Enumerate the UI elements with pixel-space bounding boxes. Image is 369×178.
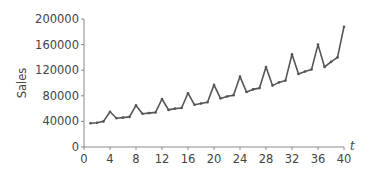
data-point-marker	[109, 111, 112, 114]
x-tick-label: 32	[285, 152, 300, 166]
data-point-marker	[252, 88, 255, 91]
data-point-marker	[154, 111, 157, 114]
y-tick-label: 40000	[42, 114, 79, 128]
data-point-marker	[141, 112, 144, 115]
data-point-marker	[297, 73, 300, 76]
data-point-marker	[135, 104, 138, 107]
data-point-marker	[219, 97, 222, 100]
data-point-marker	[122, 116, 125, 119]
data-point-marker	[239, 75, 242, 78]
x-tick-label: 40	[337, 152, 352, 166]
x-tick-label: 4	[106, 152, 113, 166]
data-point-marker	[271, 84, 274, 87]
data-point-marker	[232, 94, 235, 97]
x-tick-label: 36	[311, 152, 326, 166]
x-tick-label: 12	[155, 152, 170, 166]
data-point-marker	[206, 101, 209, 104]
data-point-marker	[265, 66, 268, 69]
x-tick-label: 20	[207, 152, 222, 166]
y-tick-label: 80000	[42, 89, 79, 103]
data-point-marker	[89, 122, 92, 125]
data-point-marker	[115, 117, 118, 120]
data-point-marker	[278, 81, 281, 84]
data-point-marker	[96, 121, 99, 124]
y-tick-label: 160000	[35, 38, 79, 52]
data-point-marker	[161, 98, 164, 101]
data-point-marker	[304, 70, 307, 73]
data-point-marker	[343, 25, 346, 28]
y-axis-title: Sales	[15, 68, 29, 99]
data-point-marker	[213, 84, 216, 87]
data-point-marker	[226, 95, 229, 98]
data-point-marker	[167, 109, 170, 112]
y-tick-label: 200000	[35, 12, 79, 26]
data-point-marker	[317, 43, 320, 46]
x-tick-label: 8	[132, 152, 139, 166]
data-point-marker	[187, 92, 190, 95]
data-point-marker	[148, 112, 151, 115]
sales-series-line	[91, 27, 345, 124]
data-point-marker	[310, 68, 313, 71]
data-point-marker	[128, 116, 131, 119]
data-point-marker	[323, 66, 326, 69]
x-tick-label: 0	[80, 152, 87, 166]
sales-line-chart: 04000080000120000160000200000 0481216202…	[0, 0, 369, 178]
x-tick-label: 16	[181, 152, 196, 166]
data-point-marker	[193, 103, 196, 106]
y-axis-ticks: 04000080000120000160000200000	[35, 12, 84, 154]
data-point-marker	[284, 79, 287, 82]
data-point-marker	[180, 107, 183, 110]
data-point-marker	[102, 120, 105, 123]
data-point-marker	[174, 107, 177, 110]
data-point-marker	[336, 56, 339, 59]
x-tick-label: 24	[233, 152, 248, 166]
x-axis-title: t	[350, 139, 355, 153]
data-point-marker	[258, 87, 261, 90]
data-point-marker	[200, 102, 203, 105]
x-tick-label: 28	[259, 152, 274, 166]
data-point-marker	[245, 91, 248, 94]
sales-series-markers	[89, 25, 345, 124]
x-axis-ticks: 0481216202428323640	[80, 147, 351, 166]
data-point-marker	[330, 61, 333, 64]
data-point-marker	[291, 53, 294, 56]
y-tick-label: 120000	[35, 63, 79, 77]
y-tick-label: 0	[72, 140, 79, 154]
